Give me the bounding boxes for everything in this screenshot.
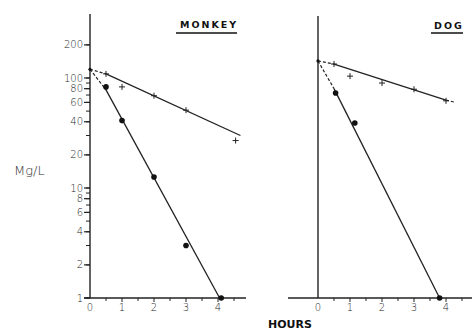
y-tick-label: 40 bbox=[70, 116, 83, 127]
monkey-title: MONKEY bbox=[180, 19, 238, 30]
x-tick-label: 1 bbox=[347, 302, 353, 313]
dot-marker bbox=[333, 90, 339, 96]
y-tick-label: 8 bbox=[77, 193, 83, 204]
fit-line bbox=[334, 64, 446, 100]
y-axis-label: Mg/L bbox=[14, 163, 45, 178]
fit-line bbox=[334, 89, 440, 298]
y-tick-label: 100 bbox=[64, 73, 83, 84]
x-tick-label: 0 bbox=[87, 302, 93, 313]
dot-marker bbox=[218, 295, 224, 301]
fit-line-dashed bbox=[318, 61, 334, 89]
dot-marker bbox=[151, 174, 157, 180]
monkey-panel: 12468102040608010020001234 bbox=[64, 14, 246, 313]
x-tick-label: 2 bbox=[379, 302, 385, 313]
dot-marker bbox=[437, 295, 443, 301]
y-tick-label: 80 bbox=[70, 83, 83, 94]
dot-marker bbox=[103, 84, 109, 90]
dog-panel: 01234 bbox=[288, 16, 472, 313]
y-tick-label: 1 bbox=[77, 293, 83, 304]
dog-title: DOG bbox=[434, 20, 464, 31]
pharmacokinetic-chart: 12468102040608010020001234 01234 Mg/L HO… bbox=[0, 0, 475, 336]
fit-line-dashed bbox=[90, 69, 106, 74]
y-tick-label: 10 bbox=[70, 183, 83, 194]
y-tick-label: 20 bbox=[70, 149, 83, 160]
y-tick-label: 4 bbox=[77, 226, 83, 237]
x-tick-label: 1 bbox=[119, 302, 125, 313]
dot-marker bbox=[183, 243, 189, 249]
x-tick-label: 2 bbox=[151, 302, 157, 313]
y-tick-label: 6 bbox=[77, 207, 83, 218]
x-axis-label: HOURS bbox=[268, 318, 312, 331]
x-tick-label: 3 bbox=[411, 302, 417, 313]
x-tick-label: 0 bbox=[315, 302, 321, 313]
dot-marker bbox=[119, 118, 125, 124]
intercept-point bbox=[88, 68, 91, 71]
y-tick-label: 60 bbox=[70, 97, 83, 108]
y-tick-label: 200 bbox=[64, 39, 83, 50]
intercept-point bbox=[316, 59, 319, 62]
x-tick-label: 4 bbox=[443, 302, 449, 313]
x-tick-label: 3 bbox=[183, 302, 189, 313]
dot-marker bbox=[352, 120, 358, 126]
y-tick-label: 2 bbox=[77, 259, 83, 270]
x-tick-label: 4 bbox=[215, 302, 221, 313]
